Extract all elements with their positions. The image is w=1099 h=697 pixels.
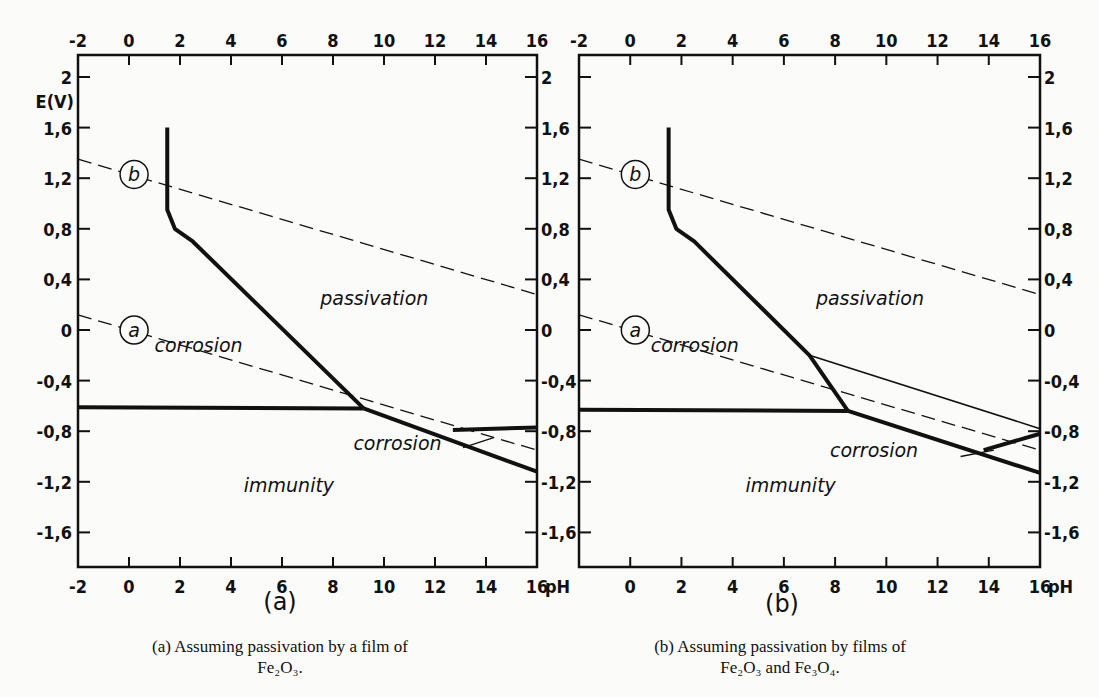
chart-panel-b: -200224466881010121214141616pH21,61,20,8… [570,30,1079,597]
y-tick-label-right: 2 [1044,67,1055,88]
region-label-immunity: immunity [745,474,836,496]
y-tick-label-left: -0,4 [37,371,72,392]
x-tick-label-bottom: 0 [123,576,134,597]
x-tick-label-bottom: 14 [978,576,1001,597]
line-label: a [128,319,140,341]
x-tick-label-top: 16 [526,30,549,51]
region-label-passivation: passivation [815,287,924,309]
y-tick-label-right: 1,6 [541,118,570,139]
y-tick-label-left: -1,6 [37,522,72,543]
y-tick-label-left: 0,8 [43,219,72,240]
region-label-corrosion-acid: corrosion [155,334,243,356]
region-label-passivation: passivation [319,287,428,309]
x-tick-label-bottom: 12 [424,576,447,597]
series-line [78,407,364,408]
y-tick-label-right: 0,4 [1044,269,1073,290]
x-tick-label-top: 6 [276,30,287,51]
x-tick-label-bottom: 4 [225,576,236,597]
y-tick-label-right: 1,6 [1044,118,1073,139]
panel-b-sublabel: (b) [742,590,822,618]
x-tick-label-top: 16 [1029,30,1052,51]
x-tick-label-top: 10 [373,30,396,51]
x-axis-label: pH [1048,576,1073,597]
region-label-corrosion-alkaline: corrosion [830,439,918,461]
line-label: b [629,163,641,185]
x-tick-label-bottom: 8 [829,576,840,597]
x-tick-label-top: 12 [424,30,447,51]
y-tick-label-right: -0,4 [541,371,576,392]
x-tick-label-bottom: 2 [676,576,687,597]
y-tick-label-left: -0,8 [37,421,72,442]
line-label: b [128,163,140,185]
x-tick-label-top: 2 [174,30,185,51]
caption-a-line2: Fe₂O₃. [100,657,460,678]
y-tick-label-right: -1,2 [1044,472,1079,493]
y-tick-label-left: 0 [61,320,72,341]
y-tick-label-left: -1,2 [37,472,72,493]
x-tick-label-top: 12 [926,30,949,51]
x-tick-label-bottom: 12 [926,576,949,597]
x-tick-label-bottom: 2 [174,576,185,597]
y-tick-label-right: 0,4 [541,269,570,290]
x-tick-label-top: 10 [875,30,898,51]
x-tick-label-top: 6 [778,30,789,51]
x-tick-label-top: 0 [625,30,636,51]
region-label-corrosion-alkaline: corrosion [353,432,441,454]
y-tick-label-right: -1,2 [541,472,576,493]
x-tick-label-top: 8 [829,30,840,51]
y-tick-label-right: 2 [541,67,552,88]
region-label-corrosion-acid: corrosion [651,334,739,356]
pourbaix-figure: -2-200224466881010121214141616pH221,61,6… [0,0,1099,697]
y-axis-label: E(V) [36,91,74,112]
x-tick-label-top: 14 [978,30,1001,51]
y-tick-label-left: 1,2 [43,168,72,189]
y-tick-label-right: -1,6 [541,522,576,543]
x-tick-label-bottom: -2 [69,576,87,597]
y-tick-label-right: 1,2 [1044,168,1073,189]
x-tick-label-top: -2 [69,30,87,51]
y-tick-label-right: -0,8 [541,421,576,442]
y-tick-label-left: 1,6 [43,118,72,139]
x-tick-label-bottom: 14 [475,576,498,597]
x-tick-label-top: 14 [475,30,498,51]
caption-b: (b) Assuming passivation by films of Fe₂… [600,636,960,678]
x-tick-label-top: 8 [327,30,338,51]
x-tick-label-bottom: 8 [327,576,338,597]
y-tick-label-right: 0 [541,320,552,341]
caption-a-line1: (a) Assuming passivation by a film of [100,636,460,657]
series-line [669,128,848,411]
y-tick-label-left: 0,4 [43,269,72,290]
x-tick-label-top: 2 [676,30,687,51]
x-tick-label-bottom: 0 [625,576,636,597]
y-tick-label-right: -0,8 [1044,421,1079,442]
x-tick-label-bottom: 4 [727,576,738,597]
caption-b-line2: Fe₂O₃ and Fe₃O₄. [600,657,960,678]
y-tick-label-right: 0,8 [1044,219,1073,240]
x-axis-label: pH [545,576,570,597]
x-tick-label-top: -2 [570,30,588,51]
x-tick-label-top: 0 [123,30,134,51]
y-tick-label-left: 2 [61,67,72,88]
line-label: a [630,319,642,341]
y-tick-label-right: 0 [1044,320,1055,341]
caption-b-line1: (b) Assuming passivation by films of [600,636,960,657]
x-tick-label-top: 4 [727,30,738,51]
x-tick-label-top: 4 [225,30,236,51]
x-tick-label-bottom: 10 [373,576,396,597]
x-tick-label-bottom: 10 [875,576,898,597]
caption-a: (a) Assuming passivation by a film of Fe… [100,636,460,678]
y-tick-label-right: -1,6 [1044,522,1079,543]
series-line [167,128,363,409]
y-tick-label-right: -0,4 [1044,371,1079,392]
series-line [579,410,848,411]
region-label-immunity: immunity [244,474,335,496]
panel-a-sublabel: (a) [240,588,320,616]
y-tick-label-right: 1,2 [541,168,570,189]
series-line [453,427,537,430]
y-tick-label-right: 0,8 [541,219,570,240]
chart-panel-a: -2-200224466881010121214141616pH221,61,6… [36,30,577,597]
